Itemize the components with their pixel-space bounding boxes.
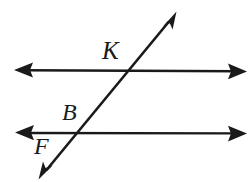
upper-parallel-shaft — [25, 70, 238, 71]
point-label-b: B — [62, 100, 77, 124]
geometry-figure: K B F — [0, 0, 252, 182]
point-label-k: K — [102, 38, 119, 63]
upper-parallel-line — [14, 63, 247, 80]
lower-parallel-line — [15, 125, 247, 141]
point-label-f: F — [34, 134, 49, 158]
